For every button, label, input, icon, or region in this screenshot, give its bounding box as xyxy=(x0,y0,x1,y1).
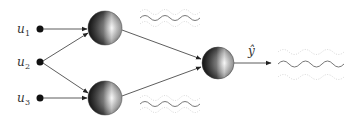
svg-text:u: u xyxy=(17,22,25,36)
edge-u2-h1 xyxy=(43,33,88,61)
neural-network-diagram: u 1 u 2 u 3 ŷ xyxy=(0,0,359,122)
input-label-u3: u 3 xyxy=(17,91,30,107)
hidden-2-signal-wave xyxy=(140,96,200,113)
output-node xyxy=(202,47,234,79)
svg-text:u: u xyxy=(17,91,25,105)
edge-u2-h2 xyxy=(43,63,88,93)
edge-h1-out xyxy=(122,30,201,59)
svg-text:2: 2 xyxy=(25,62,30,71)
output-label-yhat: ŷ xyxy=(247,44,255,58)
hidden-node-2 xyxy=(88,81,122,115)
edge-h2-out xyxy=(122,67,201,96)
svg-text:u: u xyxy=(17,55,25,69)
output-signal-wave xyxy=(278,50,344,80)
input-label-u2: u 2 xyxy=(17,55,30,71)
hidden-1-signal-wave xyxy=(140,10,200,27)
input-node-u3 xyxy=(37,95,44,102)
hidden-node-1 xyxy=(88,11,122,45)
input-label-u1: u 1 xyxy=(17,22,30,38)
input-node-u1 xyxy=(37,26,44,33)
svg-text:3: 3 xyxy=(25,98,30,107)
input-node-u2 xyxy=(37,59,44,66)
svg-text:1: 1 xyxy=(25,29,30,38)
